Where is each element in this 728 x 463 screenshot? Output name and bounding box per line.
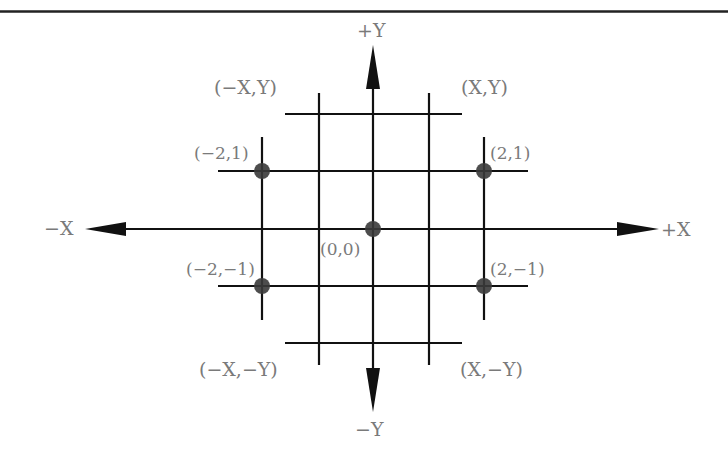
point-origin xyxy=(365,221,381,237)
point-label-m2-1: (−2,1) xyxy=(194,145,249,162)
coordinate-diagram: +Y −Y −X +X (−X,Y) (X,Y) (−X,−Y) (X,−Y) … xyxy=(0,0,728,463)
axis-label-neg-y: −Y xyxy=(355,420,383,439)
quadrant-label-q2: (−X,Y) xyxy=(214,78,277,97)
point-m2-1 xyxy=(254,163,270,179)
arrow-right-icon xyxy=(617,222,659,236)
arrow-up-icon xyxy=(366,45,380,89)
grid-graphic xyxy=(0,0,728,463)
point-label-origin: (0,0) xyxy=(320,241,360,258)
arrow-left-icon xyxy=(85,222,126,236)
point-m2-m1 xyxy=(254,278,270,294)
axis-label-pos-x: +X xyxy=(661,220,690,239)
axis-label-pos-y: +Y xyxy=(357,21,385,40)
arrow-down-icon xyxy=(366,368,380,412)
point-label-2-1: (2,1) xyxy=(490,145,530,162)
point-label-m2-m1: (−2,−1) xyxy=(186,261,255,278)
quadrant-label-q3: (−X,−Y) xyxy=(199,360,278,379)
quadrant-label-q4: (X,−Y) xyxy=(460,360,523,379)
quadrant-label-q1: (X,Y) xyxy=(461,78,508,97)
point-2-1 xyxy=(476,163,492,179)
point-label-2-m1: (2,−1) xyxy=(490,261,545,278)
point-2-m1 xyxy=(476,278,492,294)
axis-label-neg-x: −X xyxy=(44,219,73,238)
